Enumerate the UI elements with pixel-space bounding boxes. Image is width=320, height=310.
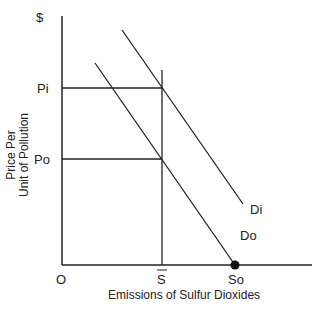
x-tick-origin: O <box>56 272 66 287</box>
demand-curve-di <box>122 30 243 204</box>
demand-curve-do <box>95 63 235 265</box>
so-point-marker <box>231 261 240 270</box>
y-axis-title-line1: Price Per <box>4 130 18 179</box>
pollution-rights-chart: $ Pi Po O S So Di Do Emissions of Sulfur… <box>0 0 320 310</box>
y-axis-title-line2: Unit of Pollution <box>17 113 31 197</box>
y-tick-po: Po <box>34 152 50 167</box>
x-axis-title: Emissions of Sulfur Dioxides <box>108 288 260 302</box>
curve-label-di: Di <box>250 202 262 217</box>
curve-label-do: Do <box>240 228 257 243</box>
x-tick-sbar: S <box>157 272 166 287</box>
y-unit-label: $ <box>36 10 44 25</box>
chart-canvas: $ Pi Po O S So Di Do Emissions of Sulfur… <box>0 0 320 310</box>
y-tick-pi: Pi <box>37 81 49 96</box>
x-tick-so: So <box>228 272 244 287</box>
